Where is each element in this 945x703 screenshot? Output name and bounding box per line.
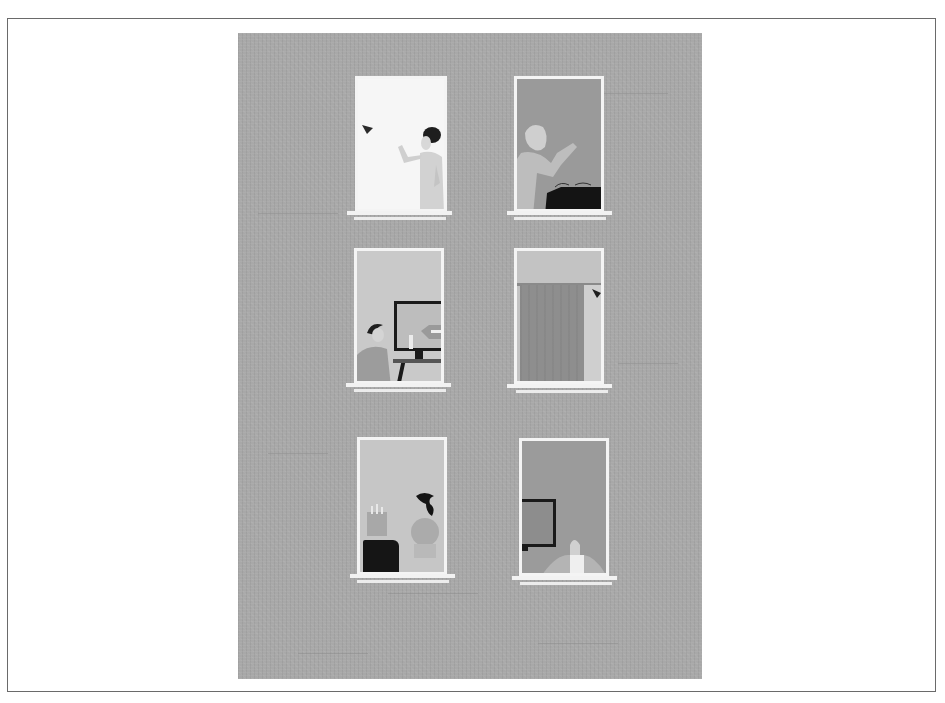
- window-top-right: [514, 76, 604, 212]
- window-sill-ledge: [516, 390, 608, 393]
- tv-screen-image: [419, 323, 443, 341]
- window-sill-ledge: [514, 217, 606, 220]
- window-sill: [507, 384, 612, 388]
- brick-line: [598, 93, 668, 94]
- window-sill: [512, 576, 617, 580]
- curtain: [520, 285, 584, 383]
- brick-line: [298, 653, 368, 654]
- window-sill-ledge: [354, 217, 446, 220]
- woman-waving-figure: [392, 123, 447, 212]
- window-sill-ledge: [357, 580, 449, 583]
- window-sill: [346, 383, 451, 387]
- brick-line: [388, 593, 478, 594]
- person-leaning-on-sill-figure: [532, 535, 609, 576]
- window-bottom-right: [519, 438, 609, 576]
- woman-ponytail-figure: [410, 492, 447, 558]
- window-sill: [507, 211, 612, 215]
- plant-icon: [369, 502, 385, 514]
- window-top-left: [355, 76, 447, 212]
- person-on-sofa-figure: [517, 119, 604, 212]
- window-middle-right: [514, 248, 604, 384]
- window-sill-ledge: [520, 582, 612, 585]
- bird-icon: [361, 123, 375, 135]
- brick-line: [268, 453, 328, 454]
- brick-line: [538, 643, 618, 644]
- bottle: [409, 335, 413, 349]
- building-wall: [238, 33, 702, 679]
- tv-stand: [415, 351, 423, 359]
- window-bottom-left: [357, 437, 447, 575]
- window-middle-left: [354, 248, 444, 384]
- man-watching-tv-figure: [357, 321, 407, 384]
- brick-line: [618, 363, 678, 364]
- brick-line: [258, 213, 338, 214]
- picture-frame-corner: [522, 545, 528, 551]
- window-sill-ledge: [354, 389, 446, 392]
- bird-icon: [591, 287, 603, 299]
- plant-pot: [367, 512, 387, 536]
- window-sill: [350, 574, 455, 578]
- window-sill: [347, 211, 452, 215]
- curtain-open-side: [584, 285, 601, 383]
- armchair: [363, 540, 399, 572]
